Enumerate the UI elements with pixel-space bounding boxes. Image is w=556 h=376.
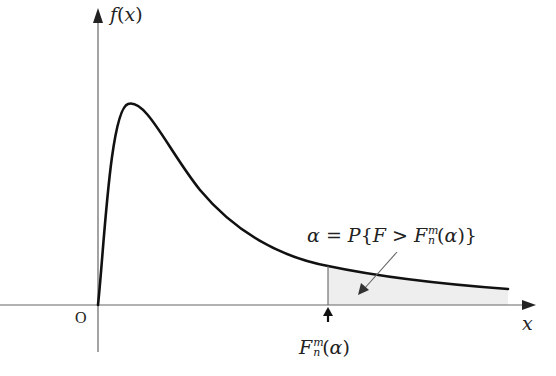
crit-label-sub: n: [313, 347, 320, 358]
alpha-symbol: α: [307, 224, 320, 246]
arg-alpha: α: [445, 224, 458, 246]
critical-value-label: Fmn(α): [299, 338, 350, 357]
arg-close: ): [457, 224, 464, 246]
x-axis-arrow-icon: [522, 300, 536, 310]
alpha-probability-annotation: α = P{F > Fmn(α)}: [307, 226, 477, 245]
prob-symbol: P: [348, 224, 361, 246]
critical-sub: n: [428, 235, 435, 246]
crit-label-base: F: [299, 336, 312, 358]
y-label-func: f: [110, 3, 117, 25]
crit-label-indices: mn: [312, 338, 322, 356]
origin-label: O: [75, 310, 87, 326]
right-brace: }: [465, 224, 477, 246]
density-curve: [98, 104, 508, 305]
f-distribution-diagram: f(x) O x α = P{F > Fmn(α)} Fmn(α): [0, 0, 556, 376]
y-axis-label: f(x): [110, 5, 143, 24]
y-label-arg: x: [124, 3, 135, 25]
crit-label-arg: α: [330, 336, 343, 358]
critical-value-pointer-icon: [323, 307, 333, 316]
greater-than-sign: >: [386, 224, 414, 246]
critical-indices: mn: [427, 226, 437, 244]
critical-base: F: [414, 224, 427, 246]
y-axis-arrow-icon: [93, 8, 103, 23]
x-axis-label: x: [522, 314, 533, 333]
crit-label-close: ): [342, 336, 349, 358]
equals-sign: =: [320, 224, 348, 246]
random-variable: F: [373, 224, 386, 246]
left-brace: {: [361, 224, 373, 246]
